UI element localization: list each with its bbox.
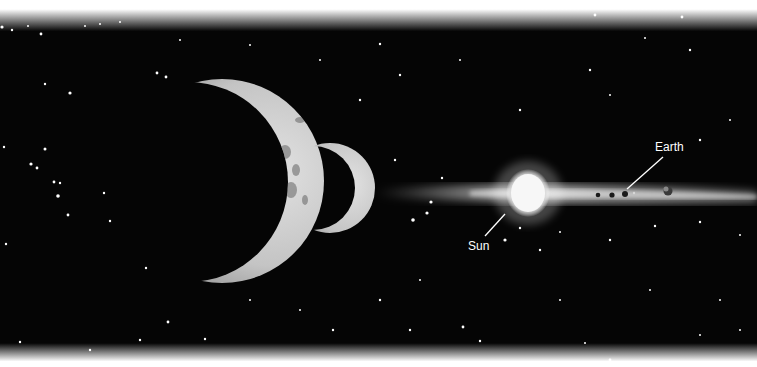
planet-venus bbox=[609, 192, 614, 197]
sun-label: Sun bbox=[468, 240, 489, 252]
planet-mars bbox=[633, 192, 635, 194]
space-scene-svg bbox=[0, 0, 757, 367]
earth-label: Earth bbox=[655, 141, 684, 153]
planet-mercury bbox=[596, 193, 601, 198]
planet-earth bbox=[622, 191, 628, 197]
space-illustration: Earth Sun bbox=[0, 0, 757, 367]
small-crescent-moon bbox=[280, 130, 380, 250]
